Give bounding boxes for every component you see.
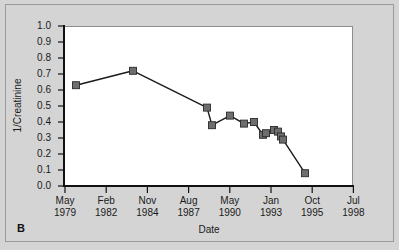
y-tick-label: 0.4	[21, 117, 51, 127]
data-point-marker	[130, 67, 137, 74]
x-tick-marks	[65, 187, 353, 193]
y-tick-label: 0.6	[21, 85, 51, 95]
figure-panel: 1.00.90.80.70.60.50.40.30.20.10.0 May197…	[0, 0, 399, 250]
data-line	[76, 71, 305, 173]
data-point-marker	[227, 112, 234, 119]
x-tick-label: Jul1998	[323, 195, 383, 219]
data-point-marker	[280, 136, 287, 143]
y-tick-label: 0.9	[21, 37, 51, 47]
data-point-marker	[251, 119, 258, 126]
y-tick-label: 0.1	[21, 165, 51, 175]
x-axis-title: Date	[179, 224, 239, 235]
y-axis-title: 1/Creatinine	[12, 66, 23, 146]
y-tick-label: 0.0	[21, 181, 51, 191]
data-markers	[73, 67, 309, 176]
data-point-marker	[73, 82, 80, 89]
data-point-marker	[302, 170, 309, 177]
data-point-marker	[263, 130, 270, 137]
data-point-marker	[241, 120, 248, 127]
x-tick-month: Jul	[323, 195, 383, 207]
panel-label: B	[17, 222, 25, 234]
y-tick-label: 0.2	[21, 149, 51, 159]
data-point-marker	[204, 104, 211, 111]
data-point-marker	[209, 122, 216, 129]
y-tick-label: 0.5	[21, 101, 51, 111]
y-tick-label: 0.8	[21, 53, 51, 63]
x-tick-year: 1998	[323, 207, 383, 219]
y-tick-marks	[58, 26, 63, 186]
y-tick-label: 0.3	[21, 133, 51, 143]
y-tick-label: 1.0	[21, 21, 51, 31]
y-tick-label: 0.7	[21, 69, 51, 79]
